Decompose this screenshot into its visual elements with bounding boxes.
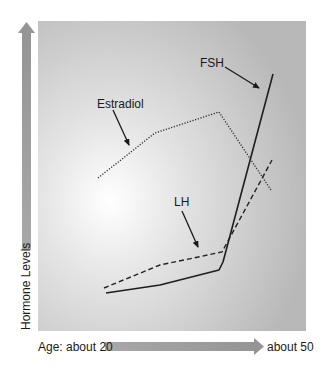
x-axis-arrow [105, 338, 264, 355]
age-start-label: Age: about 20 [38, 341, 113, 353]
plot-area [38, 21, 306, 331]
y-axis-arrow [18, 22, 35, 250]
fsh-label: FSH [200, 57, 224, 69]
age-end-label: about 50 [267, 341, 314, 353]
y-axis-label: Hormone Levels [20, 243, 32, 330]
hormone-chart [0, 0, 322, 369]
lh-label: LH [174, 196, 189, 208]
estradiol-label: Estradiol [97, 98, 144, 110]
